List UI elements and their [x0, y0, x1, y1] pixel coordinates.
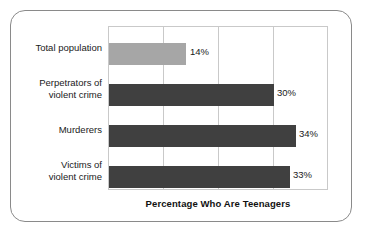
bar-murderers [109, 125, 296, 147]
category-label-line: violent crime [6, 171, 102, 183]
plot-area [108, 26, 328, 190]
category-label-line: violent crime [6, 89, 102, 101]
category-label-victims-of-violent-crime: Victims of violent crime [6, 159, 102, 182]
bar-total-population [109, 43, 186, 65]
category-label-line: Murderers [6, 124, 102, 136]
data-label-total-population: 14% [190, 46, 209, 57]
category-label-murderers: Murderers [6, 124, 102, 136]
data-label-perpetrators-of-violent-crime: 30% [277, 87, 296, 98]
data-label-victims-of-violent-crime: 33% [293, 169, 312, 180]
data-label-murderers: 34% [299, 128, 318, 139]
category-label-line: Total population [6, 42, 102, 54]
category-label-total-population: Total population [6, 42, 102, 54]
category-label-perpetrators-of-violent-crime: Perpetrators of violent crime [6, 77, 102, 100]
gridline-20 [218, 27, 219, 189]
bar-victims-of-violent-crime [109, 166, 290, 188]
gridline-30 [273, 27, 274, 189]
category-label-line: Perpetrators of [6, 77, 102, 89]
chart-figure: Total population Perpetrators of violent… [0, 0, 368, 235]
bar-perpetrators-of-violent-crime [109, 84, 274, 106]
category-label-line: Victims of [6, 159, 102, 171]
x-axis-title: Percentage Who Are Teenagers [108, 198, 328, 209]
